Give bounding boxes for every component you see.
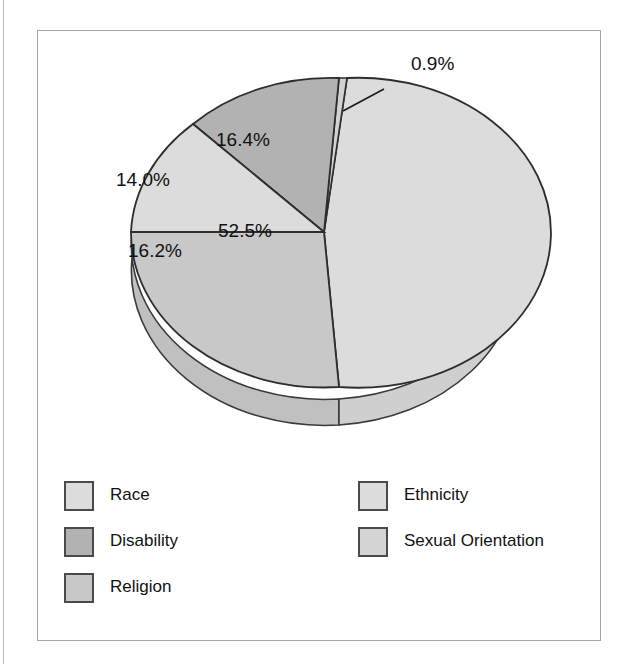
pie-chart: 52.5% 16.4% 14.0% 16.2% 0.9% bbox=[38, 31, 602, 471]
legend-label-disability: Disability bbox=[110, 531, 178, 551]
slice-value-sexual-orientation: 0.9% bbox=[411, 53, 454, 75]
slice-value-ethnicity: 14.0% bbox=[116, 169, 170, 191]
slice-value-race: 52.5% bbox=[218, 220, 272, 242]
legend-swatch-religion bbox=[64, 573, 94, 603]
legend-label-ethnicity: Ethnicity bbox=[404, 485, 468, 505]
page-margin-rule bbox=[3, 0, 4, 664]
pie-top-face bbox=[131, 78, 551, 388]
legend-swatch-race bbox=[64, 481, 94, 511]
legend-label-race: Race bbox=[110, 485, 150, 505]
legend-label-religion: Religion bbox=[110, 577, 171, 597]
legend-swatch-ethnicity bbox=[358, 481, 388, 511]
chart-legend: Race Disability Religion Ethnicity Sexua… bbox=[38, 471, 602, 642]
slice-value-disability: 16.4% bbox=[216, 129, 270, 151]
slice-value-religion: 16.2% bbox=[128, 240, 182, 262]
legend-label-sexual-orientation: Sexual Orientation bbox=[404, 531, 544, 551]
pie-chart-svg bbox=[38, 31, 602, 471]
legend-swatch-sexual-orientation bbox=[358, 527, 388, 557]
legend-swatch-disability bbox=[64, 527, 94, 557]
figure-frame: 52.5% 16.4% 14.0% 16.2% 0.9% Race Disabi… bbox=[37, 30, 601, 641]
slice-race bbox=[324, 78, 551, 388]
